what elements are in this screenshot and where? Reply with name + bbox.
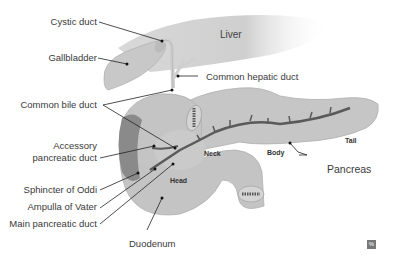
gallbladder-label: Gallbladder: [48, 52, 97, 63]
cystic-duct-label: Cystic duct: [51, 16, 97, 27]
expand-icon[interactable]: %: [367, 240, 376, 249]
ampulla-of-vater-label: Ampulla of Vater: [27, 201, 97, 212]
sphincter-of-oddi-label: Sphincter of Oddi: [24, 184, 97, 195]
duodenum-label: Duodenum: [129, 238, 175, 249]
common-hepatic-duct-label: Common hepatic duct: [206, 71, 298, 82]
common-bile-duct-label: Common bile duct: [20, 99, 97, 110]
accessory-pancreatic-duct-label-line2: pancreatic duct: [33, 152, 97, 163]
accessory-pancreatic-duct-label-line1: Accessory: [53, 140, 97, 151]
head-label: Head: [170, 177, 187, 185]
pancreas-label: Pancreas: [327, 164, 371, 175]
liver-label: Liver: [220, 29, 242, 40]
tail-label: Tail: [345, 137, 357, 145]
main-pancreatic-duct-label: Main pancreatic duct: [9, 218, 97, 229]
body-label: Body: [267, 149, 285, 157]
neck-label: Neck: [204, 150, 221, 158]
